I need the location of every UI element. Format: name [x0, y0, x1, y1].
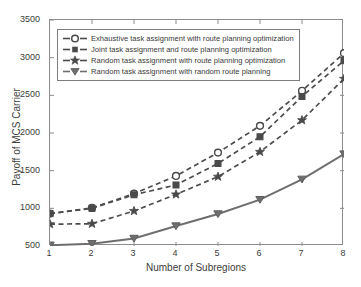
data-point-marker	[88, 241, 96, 246]
data-point-marker	[299, 93, 305, 99]
data-point-marker	[88, 219, 97, 227]
legend-label-exhaustive: Exhaustive task assignment with route pl…	[91, 34, 294, 43]
data-series	[50, 58, 344, 217]
x-tick-1: 1	[46, 248, 51, 258]
x-tick-8: 8	[340, 248, 345, 258]
x-axis-title: Number of Subregions	[49, 262, 343, 273]
legend-label-joint: Joint task assignment and route planning…	[91, 45, 272, 54]
data-point-marker	[340, 74, 345, 82]
chart-figure: 3500 3000 2500 2000 1500 1000 500 Payoff…	[0, 0, 361, 287]
legend-label-random-random: Random task assignment with random route…	[91, 67, 270, 76]
legend-item-random-route-opt[interactable]: Random task assignment with route planni…	[62, 55, 294, 66]
data-point-marker	[131, 192, 137, 198]
data-point-marker	[130, 206, 139, 214]
data-point-marker	[172, 190, 181, 198]
x-tick-2: 2	[88, 248, 93, 258]
data-point-marker	[50, 211, 53, 217]
data-point-marker	[50, 220, 55, 228]
series-line	[50, 154, 344, 245]
legend-marker-triangle-down-icon	[62, 66, 88, 77]
data-point-marker	[298, 176, 306, 183]
y-tick-1500: 1500	[20, 165, 40, 174]
data-point-marker	[215, 161, 221, 167]
data-point-marker	[173, 182, 179, 188]
legend-item-random-random[interactable]: Random task assignment with random route…	[62, 66, 294, 77]
x-axis-tick-labels: 1 2 3 4 5 6 7 8	[49, 248, 343, 260]
y-axis-title: Payoff of MCS Carrier	[12, 67, 22, 207]
x-tick-5: 5	[214, 248, 219, 258]
y-tick-500: 500	[25, 241, 40, 250]
legend-marker-star-icon	[62, 55, 88, 66]
data-point-marker	[257, 122, 264, 129]
y-tick-3500: 3500	[20, 15, 40, 24]
legend-item-joint[interactable]: Joint task assignment and route planning…	[62, 44, 294, 55]
chart-legend: Exhaustive task assignment with route pl…	[57, 29, 300, 81]
legend-marker-square-icon	[62, 44, 88, 55]
y-tick-2500: 2500	[20, 90, 40, 99]
x-tick-4: 4	[172, 248, 177, 258]
legend-marker-circle-icon	[62, 33, 88, 44]
legend-item-exhaustive[interactable]: Exhaustive task assignment with route pl…	[62, 33, 294, 44]
x-tick-3: 3	[130, 248, 135, 258]
y-tick-2000: 2000	[20, 128, 40, 137]
series-line	[50, 61, 344, 214]
x-tick-7: 7	[298, 248, 303, 258]
x-tick-6: 6	[256, 248, 261, 258]
data-point-marker	[341, 58, 344, 64]
series-line	[50, 79, 344, 224]
y-tick-1000: 1000	[20, 203, 40, 212]
y-axis-tick-labels: 3500 3000 2500 2000 1500 1000 500	[0, 19, 44, 245]
data-point-marker	[214, 172, 223, 180]
data-point-marker	[89, 205, 95, 211]
y-tick-3000: 3000	[20, 52, 40, 61]
data-point-marker	[215, 149, 222, 156]
legend-label-random-route-opt: Random task assignment with route planni…	[91, 56, 285, 65]
data-point-marker	[173, 173, 180, 180]
data-point-marker	[341, 50, 344, 57]
data-point-marker	[257, 134, 263, 140]
